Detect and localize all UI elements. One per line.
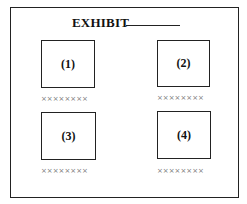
panel-label: (1): [61, 57, 75, 72]
panel-4-caption: ××××××××: [157, 167, 213, 175]
exhibit-title: EXHIBIT: [72, 15, 129, 31]
panel-label: (4): [177, 128, 191, 143]
panel-1-caption: ××××××××: [41, 95, 97, 103]
exhibit-number-blank-line: [126, 25, 180, 26]
panel-3: (3): [41, 112, 96, 160]
panel-label: (3): [62, 129, 76, 144]
panel-4: (4): [157, 111, 211, 159]
panel-2: (2): [157, 40, 210, 87]
panel-2-caption: ××××××××: [157, 94, 213, 102]
panel-1: (1): [41, 40, 95, 88]
panel-label: (2): [177, 56, 191, 71]
panel-3-caption: ××××××××: [41, 167, 97, 175]
